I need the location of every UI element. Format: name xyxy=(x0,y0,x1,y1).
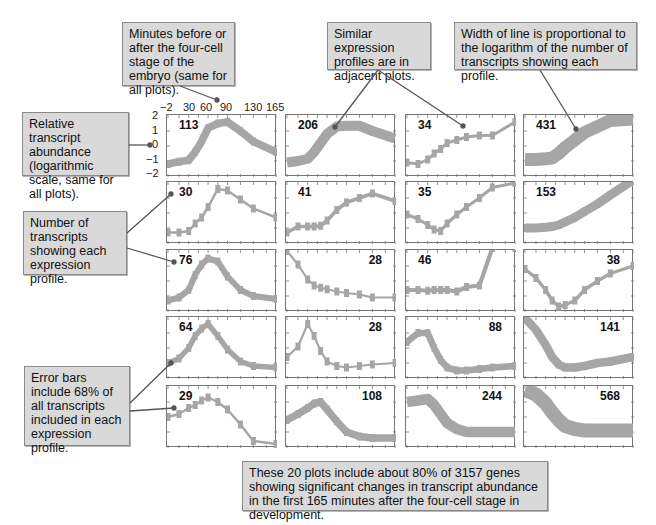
x-tick-label: 90 xyxy=(220,101,232,113)
error-bar xyxy=(477,132,482,140)
callout-line-width: Width of line is proportional to the log… xyxy=(454,22,637,70)
error-bar xyxy=(406,211,410,219)
error-bar xyxy=(464,133,469,141)
error-bar xyxy=(631,262,635,270)
transcript-count: 28 xyxy=(369,253,382,267)
profile-plot: 113 xyxy=(166,114,276,176)
error-bar xyxy=(286,250,290,255)
profile-plot: 431 xyxy=(523,114,633,176)
error-bar xyxy=(631,182,635,184)
error-bar xyxy=(186,286,191,294)
error-bar xyxy=(445,286,450,294)
error-bar xyxy=(238,358,243,366)
error-bar xyxy=(318,347,323,355)
error-bar xyxy=(556,303,561,311)
error-bar xyxy=(438,145,443,153)
transcript-count: 153 xyxy=(536,185,556,199)
error-bar xyxy=(438,227,443,235)
profile-plot: 41 xyxy=(285,181,395,243)
error-bar xyxy=(312,400,317,408)
profile-plot: 64 xyxy=(166,316,276,378)
error-bar xyxy=(393,294,397,302)
error-bar xyxy=(167,413,171,421)
error-bar xyxy=(406,286,410,294)
error-bar xyxy=(454,367,459,375)
profile-plot: 108 xyxy=(285,385,395,447)
error-bar xyxy=(238,127,243,135)
error-bar xyxy=(490,184,495,192)
transcript-count: 431 xyxy=(536,118,556,132)
error-bar xyxy=(176,355,181,363)
transcript-count: 30 xyxy=(179,185,192,199)
error-bar xyxy=(438,286,443,294)
error-bar xyxy=(312,223,317,231)
error-bar xyxy=(176,410,181,418)
error-bar xyxy=(524,224,528,232)
error-bar xyxy=(464,283,469,291)
error-bar xyxy=(415,215,420,223)
error-bar xyxy=(533,326,538,334)
error-bar xyxy=(199,397,204,405)
error-bar xyxy=(325,217,330,225)
error-bar xyxy=(550,223,555,231)
error-bar xyxy=(193,271,198,279)
error-bar xyxy=(415,160,420,168)
transcript-count: 28 xyxy=(369,320,382,334)
x-tick-label: 60 xyxy=(200,101,212,113)
error-bar xyxy=(186,404,191,412)
error-bar xyxy=(186,227,191,235)
error-bar xyxy=(490,132,495,140)
error-bar xyxy=(608,191,613,199)
error-bar xyxy=(415,286,420,294)
error-bar xyxy=(334,206,339,214)
error-bar xyxy=(524,317,528,322)
x-tick-label: 30 xyxy=(183,101,195,113)
error-bar xyxy=(490,364,495,372)
error-bar xyxy=(464,203,469,211)
callout-y-axis: Relative transcript abundance (logarithm… xyxy=(22,112,129,176)
error-bar xyxy=(225,187,230,195)
transcript-count: 64 xyxy=(179,320,192,334)
error-bar xyxy=(595,277,600,285)
error-bar xyxy=(370,190,375,198)
error-bar xyxy=(425,221,430,229)
error-bar xyxy=(445,220,450,228)
error-bar xyxy=(325,285,330,293)
error-bar xyxy=(238,421,243,429)
error-bar xyxy=(286,416,290,424)
error-bar xyxy=(572,214,577,222)
error-bar xyxy=(533,274,538,282)
error-bar xyxy=(176,158,181,166)
error-bar xyxy=(334,362,339,370)
error-bar xyxy=(199,261,204,269)
error-bar xyxy=(631,353,635,361)
error-bar xyxy=(186,156,191,164)
error-bar xyxy=(393,434,397,442)
error-bar xyxy=(215,120,220,128)
error-bar xyxy=(167,229,171,237)
error-bar xyxy=(215,398,220,406)
error-bar xyxy=(572,364,577,372)
error-bar xyxy=(251,292,256,300)
profile-plot: 76 xyxy=(166,249,276,311)
profile-plot: 35 xyxy=(405,181,515,243)
error-bar xyxy=(215,258,220,266)
error-bar xyxy=(432,286,437,294)
error-bar xyxy=(344,364,349,372)
error-bar xyxy=(370,361,375,369)
transcript-count: 141 xyxy=(600,320,620,334)
error-bar xyxy=(563,218,568,226)
error-bar xyxy=(524,265,528,273)
callout-time-axis: Minutes before or after the four-cell st… xyxy=(122,22,235,86)
error-bar xyxy=(274,440,278,448)
profile-plot: 34 xyxy=(405,114,515,176)
error-bar xyxy=(608,270,613,278)
error-bar xyxy=(274,214,278,222)
transcript-count: 108 xyxy=(362,389,382,403)
y-tick-label: −2 xyxy=(146,167,159,179)
error-bar xyxy=(206,320,211,328)
callout-transcript-count: Number of transcripts showing each expre… xyxy=(23,211,127,275)
transcript-count: 568 xyxy=(600,389,620,403)
error-bar xyxy=(193,148,198,156)
error-bar xyxy=(445,364,450,372)
